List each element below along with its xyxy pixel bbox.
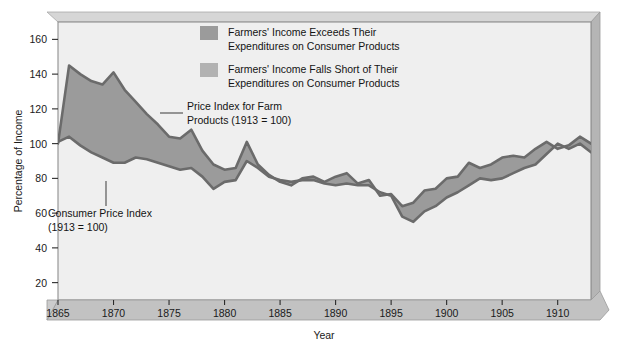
legend-label-income-exceeds-line2: Expenditures on Consumer Products [228, 40, 400, 52]
y-tick-label: 100 [29, 138, 47, 150]
legend-label-income-exceeds-line1: Farmers' Income Exceeds Their [228, 26, 377, 38]
legend-label-income-falls-short-line2: Expenditures on Consumer Products [228, 77, 400, 89]
x-axis-title: Year [313, 329, 335, 341]
x-tick-label: 1870 [102, 307, 126, 319]
chart-svg: 20406080100120140160 1865187018751880188… [0, 0, 638, 349]
legend-swatch-income-exceeds [200, 26, 218, 40]
x-tick-label: 1895 [379, 307, 403, 319]
annotation-cpi-line1: Consumer Price Index [48, 207, 153, 219]
annotation-cpi-line2: (1913 = 100) [48, 221, 108, 233]
y-tick-label: 140 [29, 68, 47, 80]
x-tick-label: 1880 [213, 307, 237, 319]
legend-swatch-income-falls-short [200, 63, 218, 77]
y-axis-ticks: 20406080100120140160 [29, 33, 58, 288]
y-tick-label: 80 [35, 172, 47, 184]
x-tick-label: 1900 [435, 307, 459, 319]
annotation-farm-line2: Products (1913 = 100) [187, 114, 291, 126]
y-axis-title: Percentage of Income [12, 109, 24, 212]
x-tick-label: 1875 [157, 307, 181, 319]
y-tick-label: 120 [29, 103, 47, 115]
frame-right-bevel [591, 12, 600, 300]
x-tick-label: 1885 [268, 307, 292, 319]
legend-label-income-falls-short-line1: Farmers' Income Falls Short of Their [228, 63, 398, 75]
y-tick-label: 40 [35, 242, 47, 254]
x-tick-label: 1910 [546, 307, 570, 319]
x-tick-label: 1865 [46, 307, 70, 319]
y-tick-label: 20 [35, 277, 47, 289]
y-tick-label: 60 [35, 207, 47, 219]
annotation-farm-line1: Price Index for Farm [187, 100, 282, 112]
chart-figure: 20406080100120140160 1865187018751880188… [0, 0, 638, 349]
frame-top-bevel [47, 12, 600, 22]
x-tick-label: 1890 [324, 307, 348, 319]
y-tick-label: 160 [29, 33, 47, 45]
x-tick-label: 1905 [490, 307, 514, 319]
